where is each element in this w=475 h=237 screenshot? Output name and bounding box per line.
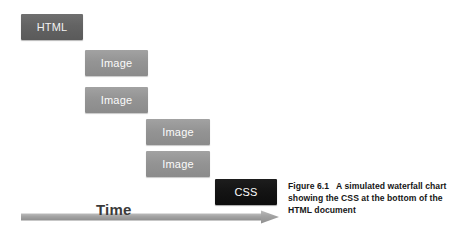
time-axis-label: Time (96, 202, 132, 217)
figure-container: HTML Image Image Image Image CSS (0, 0, 475, 237)
figure-caption: Figure 6.1A simulated waterfall chart sh… (288, 180, 470, 217)
waterfall-bar-label: Image (162, 159, 194, 170)
waterfall-bar-image-4: Image (146, 151, 210, 177)
caption-text-line-3: HTML document (288, 204, 470, 216)
waterfall-bar-image-1: Image (85, 50, 148, 76)
caption-line-1: Figure 6.1A simulated waterfall chart (288, 180, 470, 192)
waterfall-bar-css: CSS (215, 179, 277, 205)
caption-text-line-2: showing the CSS at the bottom of the (288, 192, 470, 204)
waterfall-bar-label: CSS (234, 187, 257, 198)
waterfall-chart: HTML Image Image Image Image CSS (0, 0, 290, 237)
waterfall-bar-image-3: Image (146, 119, 210, 145)
caption-text-line-1: A simulated waterfall chart (336, 181, 446, 191)
waterfall-bar-label: Image (101, 58, 133, 69)
waterfall-bar-label: Image (162, 127, 194, 138)
waterfall-bar-label: Image (101, 95, 133, 106)
waterfall-bar-label: HTML (37, 22, 68, 33)
time-axis-arrow (21, 210, 279, 224)
waterfall-bar-image-2: Image (85, 87, 148, 113)
waterfall-bar-html: HTML (21, 14, 83, 40)
caption-figure-number: Figure 6.1 (288, 181, 329, 191)
